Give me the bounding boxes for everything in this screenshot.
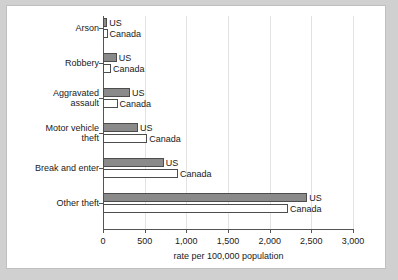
x-tick-label: 1,500 — [217, 236, 240, 246]
bar-canada-arson — [103, 29, 108, 38]
x-tick-label: 500 — [137, 236, 152, 246]
series-label-us: US — [109, 19, 122, 28]
bar-canada-aggravated-assault — [103, 99, 118, 108]
series-label-canada: Canada — [149, 135, 181, 144]
x-tick — [270, 229, 271, 233]
category-label: Motor vehicle theft — [45, 123, 99, 144]
series-label-us: US — [132, 89, 145, 98]
series-label-canada: Canada — [120, 100, 152, 109]
x-tick-label: 1,000 — [175, 236, 198, 246]
series-label-canada: Canada — [290, 205, 322, 214]
gridline — [353, 16, 354, 229]
series-label-us: US — [166, 159, 179, 168]
x-tick-label: 2,000 — [258, 236, 281, 246]
category-label: Other theft — [56, 198, 99, 209]
bar-us-aggravated-assault — [103, 88, 130, 97]
category-label: Robbery — [65, 58, 99, 69]
series-label-canada: Canada — [110, 30, 142, 39]
bar-us-arson — [103, 18, 107, 27]
bar-us-motor-vehicle-theft — [103, 123, 138, 132]
series-label-us: US — [309, 194, 322, 203]
bar-us-robbery — [103, 53, 117, 62]
series-label-canada: Canada — [180, 170, 212, 179]
x-tick-label: 0 — [100, 236, 105, 246]
category-label: Break and enter — [35, 163, 99, 174]
category-label: Aggravated assault — [53, 88, 99, 109]
x-axis-title: rate per 100,000 population — [103, 251, 354, 261]
x-tick-label: 2,500 — [300, 236, 323, 246]
series-label-us: US — [119, 54, 132, 63]
plot-area: 05001,0001,5002,0002,5003,000 ArsonRobbe… — [7, 6, 387, 270]
x-tick — [311, 229, 312, 233]
bar-canada-break-and-enter — [103, 169, 178, 178]
x-tick — [228, 229, 229, 233]
x-tick — [103, 229, 104, 233]
x-tick — [353, 229, 354, 233]
x-tick — [186, 229, 187, 233]
bar-canada-motor-vehicle-theft — [103, 134, 147, 143]
chart-figure: 05001,0001,5002,0002,5003,000 ArsonRobbe… — [6, 5, 386, 269]
series-label-canada: Canada — [113, 65, 145, 74]
bar-us-other-theft — [103, 193, 307, 202]
series-label-us: US — [140, 124, 153, 133]
x-tick-label: 3,000 — [342, 236, 365, 246]
bar-us-break-and-enter — [103, 158, 164, 167]
x-tick — [145, 229, 146, 233]
bar-canada-robbery — [103, 64, 111, 73]
bar-canada-other-theft — [103, 204, 288, 213]
category-label: Arson — [75, 23, 99, 34]
